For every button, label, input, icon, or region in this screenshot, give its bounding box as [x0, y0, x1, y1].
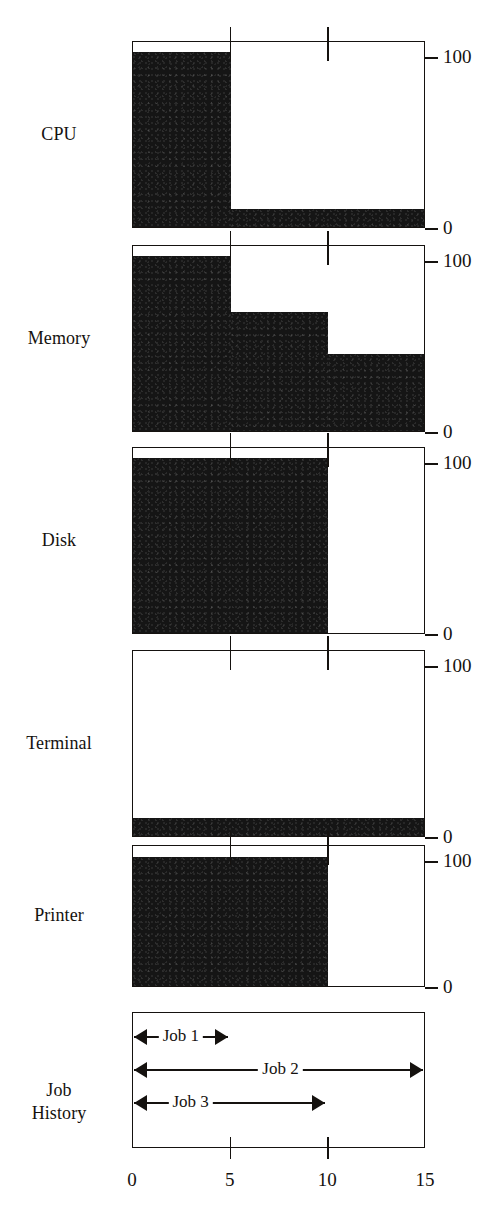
panel-xtick-10	[327, 636, 329, 670]
row-label-disk: Disk	[0, 530, 118, 551]
panel-xtick-5	[230, 831, 232, 865]
panel-xtick-10	[327, 231, 329, 265]
xaxis-label-10: 10	[307, 1170, 347, 1189]
ytick-label: 100	[443, 47, 472, 66]
ytick-label: 0	[443, 977, 453, 996]
panel-xtick-10	[327, 27, 329, 61]
plot-area-disk	[133, 448, 424, 633]
job-arrow-2: Job 2	[134, 1061, 423, 1079]
row-label-job-history-line2: History	[0, 1103, 118, 1124]
arrow-head-right-icon	[410, 1062, 423, 1078]
ytick-label: 100	[443, 656, 472, 675]
plot-area-cpu	[133, 42, 424, 227]
bar-segment	[133, 818, 425, 836]
job-arrow-label: Job 1	[159, 1026, 203, 1046]
job-arrow-label: Job 3	[168, 1092, 212, 1112]
row-label-memory: Memory	[0, 328, 118, 349]
job-arrow-3: Job 3	[134, 1094, 325, 1112]
panel-xtick-5	[230, 433, 232, 467]
bar-segment	[231, 312, 329, 431]
xaxis-label-15: 15	[405, 1170, 445, 1189]
ytick-mark	[425, 57, 438, 59]
bar-segment	[133, 52, 231, 227]
xaxis-tick-10	[327, 1137, 329, 1159]
panel-xtick-5	[230, 231, 232, 265]
ytick-mark	[425, 634, 438, 636]
plot-area-terminal	[133, 651, 424, 836]
job-arrow-1: Job 1	[134, 1028, 228, 1046]
row-label-terminal: Terminal	[0, 733, 118, 754]
plot-area-printer	[133, 846, 424, 986]
ytick-mark	[425, 463, 438, 465]
ytick-label: 100	[443, 251, 472, 270]
panel-terminal	[132, 650, 425, 837]
bar-segment	[231, 209, 425, 227]
arrow-head-right-icon	[215, 1029, 228, 1045]
ytick-label: 0	[443, 218, 453, 237]
ytick-mark	[425, 987, 438, 989]
panel-xtick-10	[327, 831, 329, 865]
ytick-mark	[425, 837, 438, 839]
arrow-head-right-icon	[312, 1095, 325, 1111]
arrow-head-left-icon	[134, 1095, 147, 1111]
ytick-mark	[425, 861, 438, 863]
resource-usage-figure: CPU1000Memory1000Disk1000Terminal1000Pri…	[0, 0, 502, 1218]
panel-xtick-5	[230, 636, 232, 670]
xaxis-tick-5	[230, 1137, 232, 1159]
row-label-printer: Printer	[0, 905, 118, 926]
ytick-label: 0	[443, 422, 453, 441]
plot-area-memory	[133, 246, 424, 431]
panel-memory	[132, 245, 425, 432]
bar-segment	[133, 857, 328, 986]
ytick-label: 100	[443, 851, 472, 870]
job-arrow-line	[134, 1102, 325, 1104]
ytick-label: 0	[443, 624, 453, 643]
job-arrow-label: Job 2	[258, 1059, 302, 1079]
panel-xtick-10	[327, 433, 329, 467]
row-label-cpu: CPU	[0, 124, 118, 145]
ytick-mark	[425, 666, 438, 668]
row-label-job-history-line1: Job	[0, 1080, 118, 1101]
panel-disk	[132, 447, 425, 634]
ytick-label: 100	[443, 453, 472, 472]
ytick-mark	[425, 432, 438, 434]
xaxis-label-0: 0	[112, 1170, 152, 1189]
arrow-head-left-icon	[134, 1062, 147, 1078]
ytick-mark	[425, 261, 438, 263]
ytick-label: 0	[443, 827, 453, 846]
bar-segment	[133, 256, 231, 431]
panel-cpu	[132, 41, 425, 228]
panel-xtick-5	[230, 27, 232, 61]
arrow-head-left-icon	[134, 1029, 147, 1045]
ytick-mark	[425, 228, 438, 230]
bar-segment	[133, 458, 328, 633]
xaxis-label-5: 5	[210, 1170, 250, 1189]
panel-printer	[132, 845, 425, 987]
bar-segment	[328, 354, 425, 431]
